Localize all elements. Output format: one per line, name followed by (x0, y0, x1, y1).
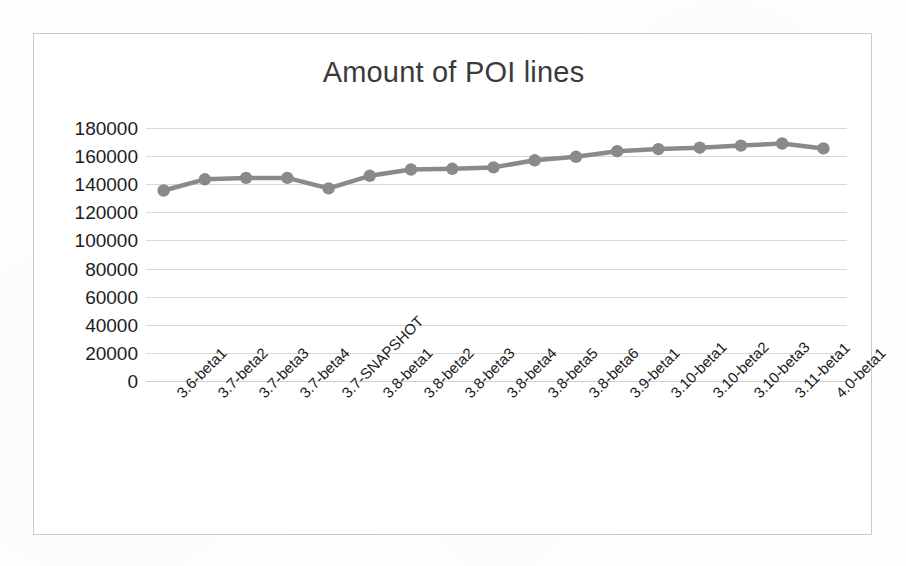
data-point-marker (570, 151, 582, 163)
data-point-marker (776, 137, 788, 149)
y-tick-label: 140000 (34, 175, 138, 194)
y-tick-label: 80000 (34, 259, 138, 278)
x-tick-label: 3.6-beta1 (173, 389, 185, 401)
x-tick-label: 3.8-beta2 (420, 389, 432, 401)
x-tick-label: 3.7-beta2 (214, 389, 226, 401)
x-tick-label-text: 3.9-beta1 (626, 389, 638, 401)
data-point-marker (611, 145, 623, 157)
data-point-marker (446, 163, 458, 175)
data-point-marker (487, 161, 499, 173)
x-tick-label-text: 3.6-beta1 (173, 389, 185, 401)
x-tick-label-text: 3.11-beta1 (791, 389, 803, 401)
x-tick-label-text: 3.10-beta1 (667, 389, 679, 401)
x-tick-label-text: 3.8-beta4 (503, 389, 515, 401)
data-point-marker (240, 172, 252, 184)
x-tick-label-text: 3.8-beta3 (461, 389, 473, 401)
data-point-marker (281, 172, 293, 184)
x-tick-label-text: 3.8-beta2 (420, 389, 432, 401)
data-point-marker (694, 142, 706, 154)
x-tick-label-text: 3.7-beta3 (255, 389, 267, 401)
y-tick-label: 60000 (34, 287, 138, 306)
x-axis-tick-labels: 3.6-beta13.7-beta23.7-beta33.7-beta43.7-… (146, 381, 847, 531)
x-tick-label: 3.7-SNAPSHOT (338, 389, 350, 401)
x-tick-label-text: 3.7-beta2 (214, 389, 226, 401)
data-point-marker (735, 139, 747, 151)
x-tick-label: 3.8-beta5 (544, 389, 556, 401)
x-tick-label-text: 3.7-SNAPSHOT (338, 389, 350, 401)
x-tick-label-text: 3.10-beta2 (709, 389, 721, 401)
y-tick-label: 180000 (34, 119, 138, 138)
x-tick-label: 3.7-beta3 (255, 389, 267, 401)
data-point-marker (322, 182, 334, 194)
x-tick-label: 3.11-beta1 (791, 389, 803, 401)
chart-title: Amount of POI lines (34, 56, 873, 89)
data-point-marker (157, 184, 169, 196)
x-tick-label: 4.0-beta1 (832, 389, 844, 401)
data-point-marker (364, 170, 376, 182)
line-series-poi-lines (146, 128, 847, 381)
data-point-marker (652, 143, 664, 155)
y-tick-label: 0 (34, 372, 138, 391)
y-tick-label: 20000 (34, 343, 138, 362)
x-tick-label: 3.10-beta2 (709, 389, 721, 401)
x-tick-label: 3.10-beta3 (750, 389, 762, 401)
x-tick-label: 3.8-beta3 (461, 389, 473, 401)
x-tick-label: 3.8-beta1 (379, 389, 391, 401)
x-tick-label: 3.8-beta6 (585, 389, 597, 401)
x-tick-label: 3.8-beta4 (503, 389, 515, 401)
y-tick-label: 160000 (34, 147, 138, 166)
x-tick-label-text: 3.8-beta5 (544, 389, 556, 401)
x-tick-label: 3.10-beta1 (667, 389, 679, 401)
y-tick-label: 120000 (34, 203, 138, 222)
y-tick-label: 40000 (34, 315, 138, 334)
x-tick-label: 3.7-beta4 (296, 389, 308, 401)
x-tick-label-text: 3.7-beta4 (296, 389, 308, 401)
x-tick-label-text: 3.8-beta1 (379, 389, 391, 401)
y-axis-tick-labels: 1800001600001400001200001000008000060000… (34, 128, 138, 381)
x-tick-label-text: 4.0-beta1 (832, 389, 844, 401)
x-tick-label: 3.9-beta1 (626, 389, 638, 401)
data-point-marker (199, 173, 211, 185)
x-tick-label-text: 3.10-beta3 (750, 389, 762, 401)
data-point-marker (529, 154, 541, 166)
data-point-marker (405, 163, 417, 175)
y-tick-label: 100000 (34, 231, 138, 250)
data-point-marker (817, 142, 829, 154)
plot-area (146, 128, 847, 381)
x-tick-label-text: 3.8-beta6 (585, 389, 597, 401)
chart-frame: Amount of POI lines 18000016000014000012… (33, 33, 872, 535)
